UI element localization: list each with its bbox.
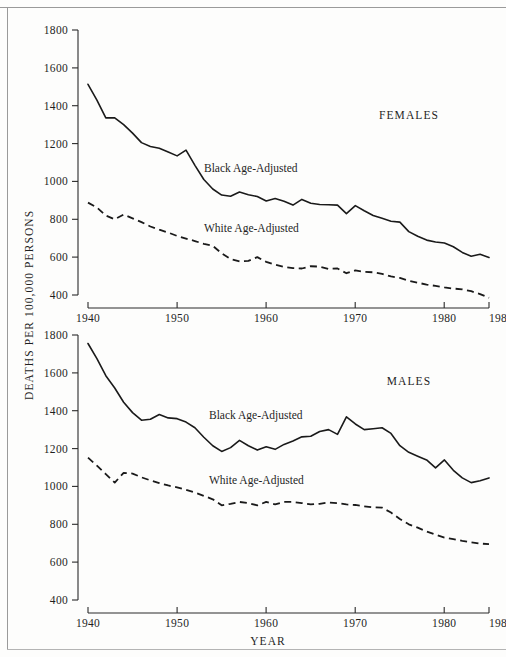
females-xtick-1960: 1960 xyxy=(254,312,278,324)
males-x-tickmarks xyxy=(88,607,489,613)
females-ytick-600: 600 xyxy=(50,251,68,263)
females-xtick-1985: 198 xyxy=(489,312,506,324)
females-ytick-1800: 1800 xyxy=(44,24,68,36)
females-ytick-1200: 1200 xyxy=(44,138,68,150)
males-xtick-1980: 1980 xyxy=(432,617,456,629)
males-ytick-1200: 1200 xyxy=(44,443,68,455)
charts-svg: DEATHS PER 100,000 PERSONS 1800 1600 140… xyxy=(0,0,506,657)
females-xtick-1950: 1950 xyxy=(165,312,189,324)
males-ytick-1600: 1600 xyxy=(44,367,68,379)
males-xtick-1950: 1950 xyxy=(165,617,189,629)
males-white-series-label: White Age-Adjusted xyxy=(209,474,304,487)
males-ytick-600: 600 xyxy=(50,556,68,568)
y-axis-title: DEATHS PER 100,000 PERSONS xyxy=(23,210,36,400)
males-xtick-1970: 1970 xyxy=(343,617,367,629)
x-axis-title: YEAR xyxy=(250,635,286,647)
females-ytick-400: 400 xyxy=(50,289,68,301)
males-xtick-1985: 198 xyxy=(489,617,506,629)
males-panel-label: MALES xyxy=(387,375,431,387)
females-white-series-label: White Age-Adjusted xyxy=(204,222,299,235)
males-ytick-400: 400 xyxy=(50,594,68,606)
males-ytick-1000: 1000 xyxy=(44,480,68,492)
males-y-tickmarks xyxy=(72,335,78,600)
females-black-series-label: Black Age-Adjusted xyxy=(204,162,298,175)
males-black-series-label: Black Age-Adjusted xyxy=(209,409,303,422)
females-white-curve xyxy=(88,203,489,298)
males-x-ticklabels: 1940 1950 1960 1970 1980 198 xyxy=(76,617,506,629)
figure-container: DEATHS PER 100,000 PERSONS 1800 1600 140… xyxy=(0,0,506,657)
females-xtick-1970: 1970 xyxy=(343,312,367,324)
females-y-tickmarks xyxy=(72,30,78,295)
females-ytick-1600: 1600 xyxy=(44,62,68,74)
panel-females: 1800 1600 1400 1200 1000 800 600 400 19 xyxy=(44,24,506,324)
females-panel-label: FEMALES xyxy=(379,109,439,121)
females-ytick-1000: 1000 xyxy=(44,175,68,187)
females-xtick-1980: 1980 xyxy=(432,312,456,324)
panel-males: 1800 1600 1400 1200 1000 800 600 400 194… xyxy=(44,329,506,647)
males-ytick-1400: 1400 xyxy=(44,405,68,417)
females-y-ticklabels: 1800 1600 1400 1200 1000 800 600 400 xyxy=(44,24,68,301)
females-x-tickmarks xyxy=(88,302,489,308)
males-ytick-1800: 1800 xyxy=(44,329,68,341)
females-x-ticklabels: 1940 1950 1960 1970 1980 198 xyxy=(76,312,506,324)
females-ytick-1400: 1400 xyxy=(44,100,68,112)
males-y-ticklabels: 1800 1600 1400 1200 1000 800 600 400 xyxy=(44,329,68,606)
males-xtick-1940: 1940 xyxy=(76,617,100,629)
males-white-curve xyxy=(88,458,489,544)
females-xtick-1940: 1940 xyxy=(76,312,100,324)
males-ytick-800: 800 xyxy=(50,518,68,530)
females-ytick-800: 800 xyxy=(50,213,68,225)
males-xtick-1960: 1960 xyxy=(254,617,278,629)
